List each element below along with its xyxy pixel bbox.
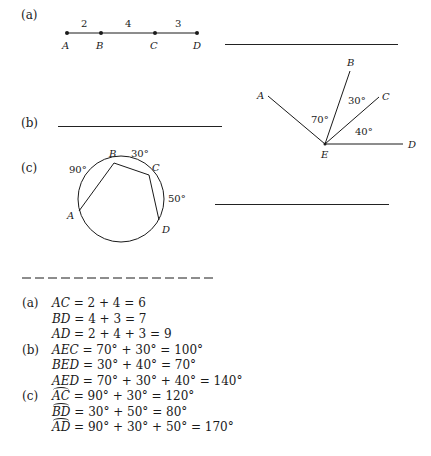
arc-ab-value: 90° [69, 164, 87, 175]
vertex-e-label: E [320, 149, 329, 160]
circle-point-c-label: C [152, 162, 160, 173]
point-a-label: A [61, 40, 69, 51]
answer-c-label: (c) [22, 389, 38, 405]
ray-d-label: D [407, 139, 416, 150]
segment-ab-length: 2 [81, 18, 87, 29]
answer-line: BED = 30° + 40° = 70° [52, 358, 196, 374]
circle-point-a-label: A [66, 210, 74, 221]
ray-a-label: A [256, 90, 264, 101]
circle-point-d-label: D [161, 224, 170, 235]
answer-line: AC = 90° + 30° = 120° [52, 389, 194, 405]
angle-aeb-value: 70° [311, 114, 329, 125]
answer-a-label: (a) [22, 296, 39, 312]
ray-b-label: B [346, 57, 354, 68]
circle-figure-c: A B C D 90° 30° 50° [66, 148, 186, 242]
answer-key: (a) AC = 2 + 4 = 6 BD = 4 + 3 = 7 AD = 2… [0, 296, 431, 456]
point-b-label: B [95, 40, 103, 51]
segment-cd-length: 3 [175, 18, 181, 29]
point-c-label: C [150, 40, 158, 51]
answer-line: AC = 2 + 4 = 6 [52, 296, 146, 312]
segment-figure-a: A B C D 2 4 3 [61, 18, 201, 51]
answer-line: BD = 4 + 3 = 7 [52, 312, 146, 328]
angle-bec-value: 30° [348, 95, 366, 106]
arc-symbol: AD [52, 420, 70, 436]
answer-b-label: (b) [22, 343, 39, 359]
answer-line: BD = 30° + 50° = 80° [52, 405, 187, 421]
arc-bc-value: 30° [131, 148, 149, 159]
ray-c-label: C [382, 91, 390, 102]
answer-line: AEC = 70° + 30° = 100° [52, 343, 203, 359]
angle-figure-b: A B C D E 70° 30° 40° [256, 57, 416, 160]
point-d-label: D [192, 40, 201, 51]
circle-point-b-label: B [108, 148, 116, 159]
answer-line: AED = 70° + 30° + 40° = 140° [52, 374, 243, 390]
answer-line: AD = 90° + 30° + 50° = 170° [52, 420, 234, 436]
answer-line: AD = 2 + 4 + 3 = 9 [52, 327, 172, 343]
arc-cd-value: 50° [168, 193, 186, 204]
angle-ced-value: 40° [355, 126, 373, 137]
segment-bc-length: 4 [125, 18, 131, 29]
